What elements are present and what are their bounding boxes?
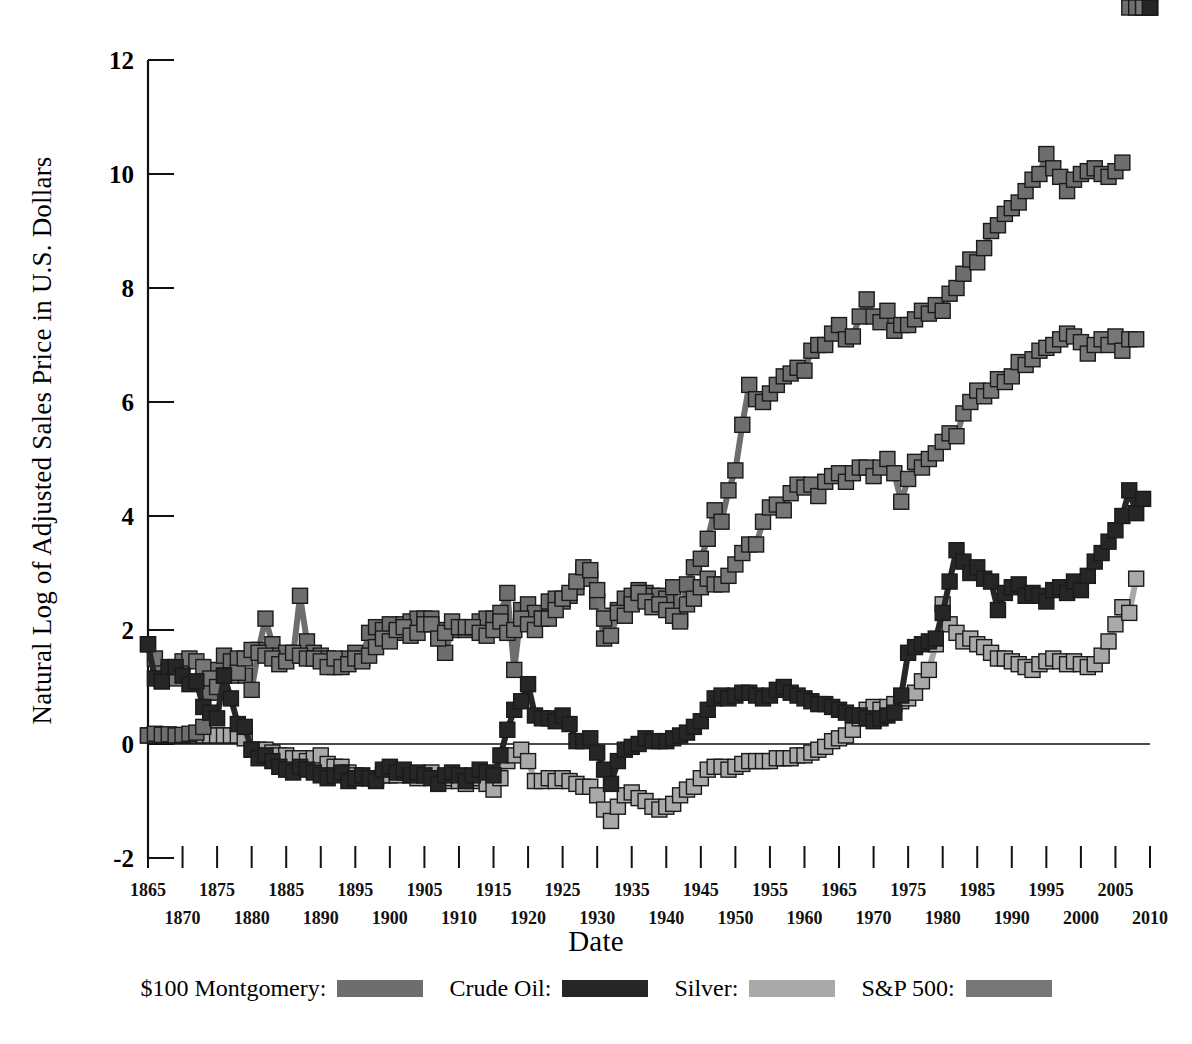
data-point-marker [949,281,964,296]
data-point-marker [603,628,618,643]
data-point-marker [756,514,771,529]
legend-swatch-silver [749,980,835,997]
chart-legend: $100 Montgomery:Crude Oil:Silver:S&P 500… [0,975,1192,1002]
data-point-marker [521,677,536,692]
data-point-marker [500,722,515,737]
y-tick-label: 0 [122,731,135,758]
data-point-marker [590,583,605,598]
series-silver [141,0,1158,828]
x-tick-label: 1935 [614,880,650,900]
x-tick-label: 1875 [199,880,235,900]
data-point-marker [832,318,847,333]
x-tick-label: 1905 [406,880,442,900]
data-point-marker [597,762,612,777]
data-point-marker [590,745,605,760]
data-point-marker [603,776,618,791]
data-point-marker [666,580,681,595]
data-point-marker [1108,329,1123,344]
data-point-marker [237,719,252,734]
data-point-marker [1143,0,1158,15]
data-point-marker [258,611,273,626]
data-point-marker [894,688,909,703]
data-point-marker [1032,167,1047,182]
y-axis-ticks: -2024681012 [109,47,174,872]
data-point-marker [714,514,729,529]
data-point-marker [1115,155,1130,170]
legend-item-montgomery[interactable]: $100 Montgomery: [140,975,423,1002]
data-point-marker [845,329,860,344]
x-tick-label: 1895 [337,880,373,900]
x-tick-label: 1955 [752,880,788,900]
data-point-marker [514,694,529,709]
data-point-marker [1101,634,1116,649]
data-point-marker [1115,509,1130,524]
data-point-marker [949,429,964,444]
data-point-marker [223,691,238,706]
data-point-marker [569,574,584,589]
legend-item-silver[interactable]: Silver: [674,975,835,1002]
data-point-marker [894,494,909,509]
data-point-marker [1122,483,1137,498]
y-tick-label: 12 [109,47,134,74]
x-tick-label: 1975 [890,880,926,900]
data-point-marker [597,611,612,626]
data-point-marker [154,674,169,689]
data-point-marker [811,489,826,504]
data-point-marker [887,466,902,481]
data-point-marker [942,574,957,589]
legend-item-crude_oil[interactable]: Crude Oil: [449,975,648,1002]
x-axis-ticks [148,846,1150,868]
legend-label-crude_oil: Crude Oil: [449,975,551,1002]
x-tick-label: 2005 [1097,880,1133,900]
data-point-marker [1136,491,1151,506]
x-tick-label: 1885 [268,880,304,900]
data-point-marker [728,463,743,478]
legend-label-montgomery: $100 Montgomery: [140,975,326,1002]
data-point-marker [293,588,308,603]
data-point-marker [984,574,999,589]
data-point-marker [1129,571,1144,586]
data-point-marker [1004,369,1019,384]
data-point-marker [921,662,936,677]
x-tick-label: 1865 [130,880,166,900]
data-point-marker [1108,617,1123,632]
legend-item-sp500[interactable]: S&P 500: [861,975,1051,1002]
data-point-marker [583,563,598,578]
data-point-marker [1129,332,1144,347]
x-tick-label: 1945 [683,880,719,900]
data-point-marker [244,682,259,697]
x-tick-labels-upper: 1865187518851895190519151925193519451955… [130,880,1133,900]
data-point-marker [742,377,757,392]
y-tick-label: 4 [122,503,135,530]
data-point-marker [1039,147,1054,162]
data-point-marker [141,637,156,652]
data-point-marker [438,645,453,660]
data-point-marker [700,531,715,546]
data-point-marker [977,241,992,256]
data-point-marker [1108,523,1123,538]
data-point-marker [486,768,501,783]
data-point-marker [507,662,522,677]
data-point-marker [1122,605,1137,620]
data-point-marker [990,603,1005,618]
data-point-marker [1080,568,1095,583]
data-point-marker [673,614,688,629]
legend-swatch-montgomery [337,980,423,997]
x-tick-label: 1985 [959,880,995,900]
chart-plot-svg: -202468101218651875188518951905191519251… [0,0,1192,1044]
x-tick-label: 1915 [476,880,512,900]
data-point-marker [880,303,895,318]
data-point-marker [693,551,708,566]
data-point-marker [852,309,867,324]
data-point-marker [735,417,750,432]
data-point-marker [797,363,812,378]
y-tick-label: -2 [113,845,134,872]
data-point-marker [1073,583,1088,598]
data-point-marker [521,754,536,769]
data-point-marker [749,537,764,552]
y-tick-label: 6 [122,389,135,416]
data-point-marker [196,719,211,734]
data-point-marker [500,585,515,600]
data-point-marker [583,731,598,746]
x-axis-title: Date [0,925,1192,958]
